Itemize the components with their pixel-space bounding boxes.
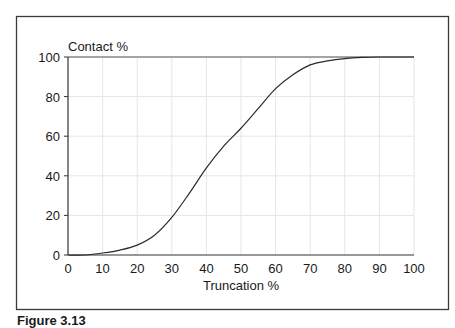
tick-labels: 0204060801000102030405060708090100 <box>38 50 425 276</box>
x-tick-label: 90 <box>372 261 386 276</box>
y-axis-label: Contact % <box>68 39 128 54</box>
x-tick-label: 40 <box>199 261 213 276</box>
x-tick-label: 50 <box>234 261 248 276</box>
figure-caption: Figure 3.13 <box>17 313 86 328</box>
x-tick-label: 20 <box>130 261 144 276</box>
y-tick-label: 40 <box>46 169 60 184</box>
y-tick-label: 60 <box>46 129 60 144</box>
x-tick-label: 60 <box>268 261 282 276</box>
y-tick-label: 20 <box>46 208 60 223</box>
x-tick-label: 80 <box>338 261 352 276</box>
x-tick-label: 100 <box>403 261 425 276</box>
x-axis-label: Truncation % <box>203 278 280 293</box>
x-tick-label: 70 <box>303 261 317 276</box>
y-tick-label: 0 <box>53 248 60 263</box>
x-tick-label: 10 <box>95 261 109 276</box>
y-tick-label: 80 <box>46 90 60 105</box>
x-tick-label: 30 <box>165 261 179 276</box>
y-tick-label: 100 <box>38 50 60 65</box>
grid-lines <box>68 57 414 255</box>
axes <box>64 57 414 255</box>
x-tick-label: 0 <box>64 261 71 276</box>
